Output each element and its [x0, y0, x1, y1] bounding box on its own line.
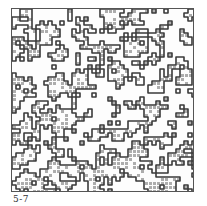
percolation-figure	[11, 8, 194, 192]
figure-label: 5-7	[13, 194, 29, 204]
cluster-pattern	[12, 9, 194, 192]
